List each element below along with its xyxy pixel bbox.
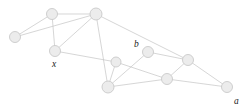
graph-node [47,9,58,20]
graph-figure: xba [0,0,249,110]
node-label-a: a [234,96,239,106]
graph-node [102,81,114,93]
graph-edge [96,14,108,87]
graph-edge [96,14,188,60]
graph-edge [55,51,116,62]
graph-edge [15,14,52,37]
node-label-x: x [51,59,57,69]
graph-edge [188,60,227,87]
graph-node [10,32,21,43]
graph-edge [148,52,188,60]
graph-node [90,8,102,20]
graph-edge [116,62,167,79]
graph-node [162,74,173,85]
graph-node-a [222,82,233,93]
graph-edge [167,79,227,87]
node-label-b: b [134,39,139,49]
edge-layer [15,14,227,87]
graph-node [111,57,121,67]
graph-node-b [143,47,154,58]
node-layer [10,8,233,93]
graph-edge [108,79,167,87]
graph-node-x [50,46,61,57]
graph-node [183,55,194,66]
graph-canvas: xba [0,0,249,110]
